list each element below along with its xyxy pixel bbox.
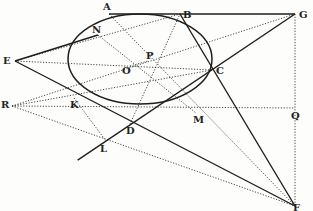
point-label-f: F bbox=[293, 202, 300, 211]
diagram-canvas: ABGENOPCRKMQDLF bbox=[0, 0, 313, 211]
dotted-line-kl bbox=[74, 98, 106, 141]
dotted-line-af bbox=[109, 14, 295, 206]
point-label-m: M bbox=[193, 114, 204, 125]
solid-line-ef bbox=[15, 61, 295, 206]
solid-line-gl bbox=[78, 14, 295, 160]
dotted-line-rq bbox=[12, 106, 295, 108]
point-label-c: C bbox=[216, 65, 224, 76]
point-label-d: D bbox=[126, 125, 135, 136]
point-label-k: K bbox=[70, 99, 79, 110]
point-labels: ABGENOPCRKMQDLF bbox=[1, 1, 308, 211]
ellipse-conic bbox=[68, 14, 212, 104]
dotted-line-rf bbox=[12, 106, 295, 206]
point-label-n: N bbox=[92, 24, 101, 35]
point-label-p: P bbox=[146, 50, 154, 61]
point-label-o: O bbox=[122, 65, 131, 76]
point-label-e: E bbox=[3, 55, 11, 66]
point-label-r: R bbox=[1, 99, 10, 110]
point-label-g: G bbox=[299, 9, 308, 20]
solid-lines bbox=[15, 14, 295, 206]
dotted-line-op bbox=[130, 61, 148, 66]
point-label-a: A bbox=[102, 1, 111, 12]
point-label-l: L bbox=[100, 143, 107, 154]
point-label-b: B bbox=[183, 9, 191, 20]
solid-line-bf bbox=[180, 14, 295, 206]
geometry-diagram: ABGENOPCRKMQDLF bbox=[0, 0, 313, 211]
dotted-line-ec bbox=[15, 61, 212, 70]
point-label-q: Q bbox=[291, 110, 300, 121]
solid-line-en bbox=[15, 35, 98, 61]
